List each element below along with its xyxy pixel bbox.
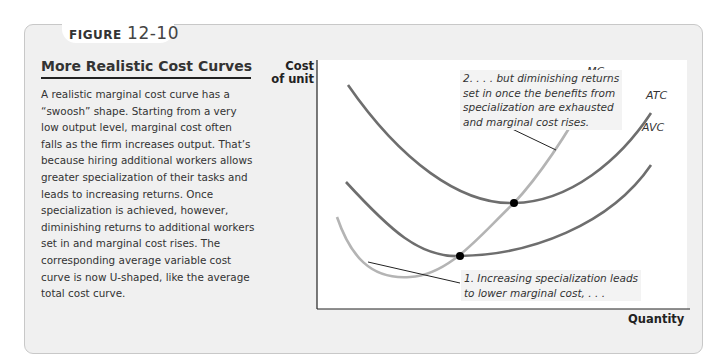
atc-label: ATC: [646, 89, 667, 102]
annotation-2-line4: and marginal cost rises.: [463, 115, 619, 130]
avc-curve: [346, 165, 651, 256]
note2-leader: [508, 127, 556, 150]
annotation-1-line1: 1. Increasing specialization leads: [464, 271, 638, 286]
x-axis-label: Quantity: [628, 312, 684, 326]
annotation-2-line3: specialization are exhausted: [463, 100, 619, 115]
annotation-1: 1. Increasing specialization leads to lo…: [461, 270, 641, 301]
annotation-2-line2: set in once the benefits from: [463, 86, 619, 101]
mc-atc-intersection: [510, 199, 518, 207]
annotation-2-line1: 2. . . . but diminishing returns: [463, 71, 619, 86]
annotation-1-line2: to lower marginal cost, . . .: [464, 286, 638, 301]
annotation-2: 2. . . . but diminishing returns set in …: [460, 70, 622, 130]
mc-avc-intersection: [456, 252, 464, 260]
avc-label: AVC: [642, 121, 664, 134]
